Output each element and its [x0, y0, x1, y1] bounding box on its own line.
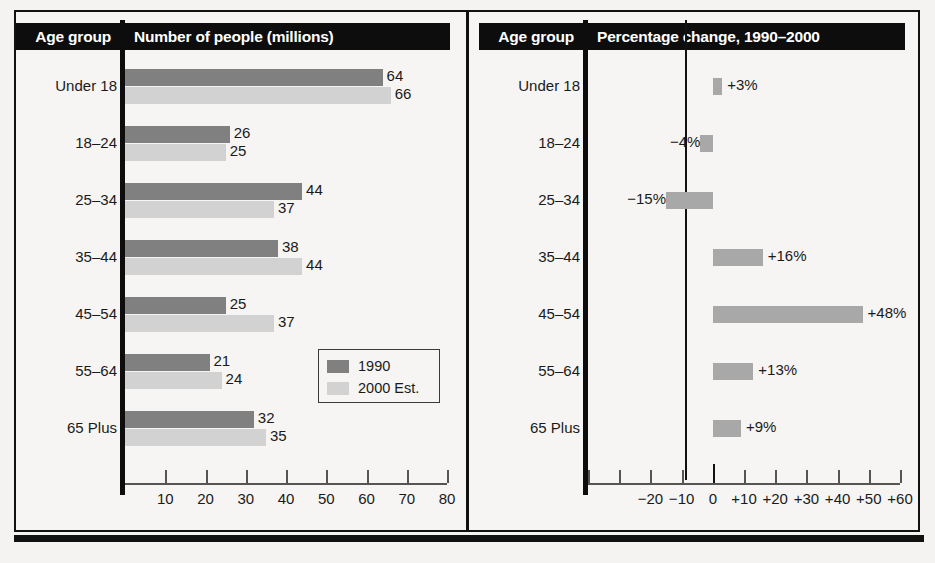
bar-value-label: 37: [278, 313, 295, 330]
axis-tick: [869, 470, 871, 483]
category-label: 25–34: [474, 191, 580, 208]
axis-tick: [713, 464, 715, 483]
chart-row: Under 18+3%: [588, 58, 905, 115]
axis-tick-label: 40: [278, 490, 295, 507]
bar-1990: [125, 297, 226, 314]
bar-value-label: −4%: [670, 133, 700, 150]
chart-row: 45–542537: [125, 287, 450, 344]
bar-1990: [125, 126, 230, 143]
right-age-group-header: Age group: [479, 23, 583, 50]
bar-value-label: +16%: [768, 247, 807, 264]
left-chart-panel: Age group Number of people (millions) Un…: [0, 0, 466, 522]
category-label: 65 Plus: [5, 419, 117, 436]
bar-value-label: 24: [226, 370, 243, 387]
legend-item: 2000 Est.: [327, 377, 439, 399]
chart-row: Under 186466: [125, 58, 450, 115]
legend: 1990 2000 Est.: [318, 349, 440, 403]
category-label: 55–64: [474, 362, 580, 379]
left-value-axis: 1020304050607080: [125, 483, 447, 485]
chart-row: 35–443844: [125, 229, 450, 286]
chart-row: 45–54+48%: [588, 287, 905, 344]
bar-value-label: +13%: [758, 361, 797, 378]
axis-tick-label: +30: [794, 490, 819, 507]
bar-value-label: +48%: [868, 304, 907, 321]
bar-1990: [125, 411, 254, 428]
bar-value-label: 66: [395, 85, 412, 102]
bar-value-label: 44: [306, 181, 323, 198]
legend-label-1990: 1990: [358, 358, 390, 374]
category-label: 55–64: [5, 362, 117, 379]
bar-2000-est: [125, 372, 222, 389]
right-plot-area: Under 18+3%18–24−4%25–34−15%35–44+16%45–…: [588, 58, 905, 458]
axis-tick-label: 20: [197, 490, 214, 507]
bar-2000-est: [125, 144, 226, 161]
legend-label-2000-est: 2000 Est.: [358, 380, 419, 396]
bar-percentage-change: [713, 249, 763, 266]
bar-1990: [125, 183, 302, 200]
axis-tick: [165, 470, 167, 483]
legend-item: 1990: [327, 355, 439, 377]
category-label: 18–24: [474, 134, 580, 151]
left-chart-title-header: Number of people (millions): [125, 23, 450, 50]
category-label: 45–54: [5, 305, 117, 322]
category-label: 45–54: [474, 305, 580, 322]
chart-row: 25–344437: [125, 172, 450, 229]
legend-swatch-2000-est: [327, 382, 349, 395]
axis-tick: [286, 470, 288, 483]
axis-tick: [588, 470, 590, 483]
category-label: Under 18: [474, 77, 580, 94]
bar-percentage-change: [713, 420, 741, 437]
bar-2000-est: [125, 201, 274, 218]
category-label: Under 18: [5, 77, 117, 94]
right-value-axis: −20−100+10+20+30+40+50+60: [588, 483, 900, 485]
bar-percentage-change: [700, 135, 712, 152]
chart-row: 65 Plus+9%: [588, 401, 905, 458]
left-chart-title-label: Number of people (millions): [134, 28, 334, 46]
bottom-rule: [14, 535, 924, 542]
axis-tick-label: +60: [887, 490, 912, 507]
axis-tick: [806, 470, 808, 483]
axis-tick-label: 30: [237, 490, 254, 507]
bar-value-label: 21: [214, 352, 231, 369]
bar-value-label: 35: [270, 427, 287, 444]
axis-tick-label: 0: [709, 490, 717, 507]
bar-2000-est: [125, 429, 266, 446]
bar-value-label: 64: [387, 67, 404, 84]
bar-2000-est: [125, 258, 302, 275]
chart-row: 18–242625: [125, 115, 450, 172]
left-age-group-header: Age group: [16, 23, 120, 50]
axis-tick-label: +40: [825, 490, 850, 507]
axis-tick: [775, 470, 777, 483]
right-chart-title-label: Percentage change, 1990–2000: [597, 28, 820, 46]
axis-tick: [900, 470, 902, 483]
axis-tick-label: 10: [157, 490, 174, 507]
bar-2000-est: [125, 87, 391, 104]
legend-swatch-1990: [327, 360, 349, 373]
category-label: 25–34: [5, 191, 117, 208]
chart-row: 35–44+16%: [588, 229, 905, 286]
axis-tick-label: −10: [669, 490, 694, 507]
axis-tick-label: +20: [762, 490, 787, 507]
axis-tick: [838, 470, 840, 483]
axis-tick: [447, 470, 449, 483]
bar-value-label: 44: [306, 256, 323, 273]
axis-tick-label: 60: [358, 490, 375, 507]
category-label: 35–44: [474, 248, 580, 265]
chart-row: 65 Plus3235: [125, 401, 450, 458]
chart-row: 55–64+13%: [588, 344, 905, 401]
axis-tick-label: 70: [398, 490, 415, 507]
chart-row: 25–34−15%: [588, 172, 905, 229]
bar-value-label: +3%: [727, 76, 757, 93]
category-label: 35–44: [5, 248, 117, 265]
chart-page: Age group Number of people (millions) Un…: [0, 0, 935, 563]
axis-tick-label: +50: [856, 490, 881, 507]
bar-percentage-change: [713, 78, 722, 95]
bar-2000-est: [125, 315, 274, 332]
category-label: 65 Plus: [474, 419, 580, 436]
bar-value-label: 25: [230, 295, 247, 312]
bar-value-label: 32: [258, 409, 275, 426]
bar-value-label: −15%: [627, 190, 666, 207]
bar-value-label: +9%: [746, 418, 776, 435]
bar-percentage-change: [713, 363, 754, 380]
bar-percentage-change: [666, 192, 713, 209]
